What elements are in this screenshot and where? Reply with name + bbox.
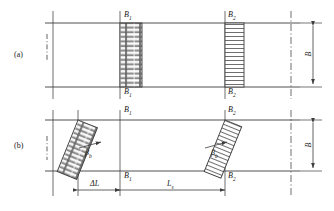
label-beta-left: βb [85,149,92,159]
label-b1-a-bottom: B1 [124,88,132,98]
label-beta-right: βb [211,149,218,159]
panel-b-band-b2 [204,120,241,178]
panel-label-a: (a) [14,50,23,59]
label-b1-b-bottom: B1 [124,172,132,182]
label-b2-a-top: B2 [228,11,236,21]
label-b1-a-top: B1 [124,11,132,21]
label-length-l: Ls [167,180,174,190]
panel-a-band-b1 [120,23,142,87]
panel-a-band-b2 [225,23,244,87]
label-b2-b-bottom: B2 [228,172,236,182]
label-height-b: B [305,143,313,148]
label-delta-l: ΔL [90,180,99,188]
label-height-a: B [305,52,313,57]
panel-label-b: (b) [14,141,23,150]
label-b1-b-top: B1 [124,106,132,116]
label-b2-b-top: B2 [228,106,236,116]
label-b2-a-bottom: B2 [228,88,236,98]
figure-container: (a) (b) B1 B2 B1 B2 B1 B2 B1 B2 βb βb B … [0,0,334,211]
panel-a-geometry [45,11,300,99]
